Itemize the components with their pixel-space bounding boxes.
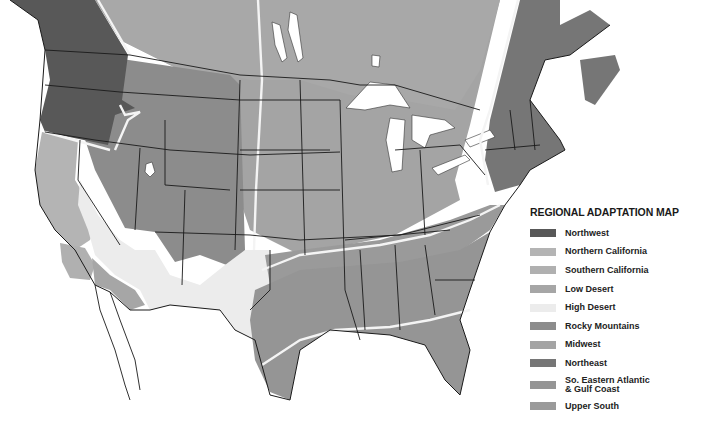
swatch-northern-california (530, 248, 556, 256)
swatch-rocky-mountains (530, 322, 556, 330)
legend-item-high-desert: High Desert (530, 298, 716, 317)
swatch-northwest (530, 229, 556, 237)
legend: REGIONAL ADAPTATION MAP Northwest Northe… (530, 206, 716, 415)
legend-item-northeast: Northeast (530, 354, 716, 373)
region-atlantic-canada (580, 55, 620, 105)
legend-item-northwest: Northwest (530, 224, 716, 243)
swatch-southern-california (530, 266, 556, 274)
legend-item-southeast-gulf-coast: So. Eastern Atlantic & Gulf Coast (530, 373, 716, 397)
legend-item-rocky-mountains: Rocky Mountains (530, 317, 716, 336)
legend-item-southern-california: Southern California (530, 261, 716, 280)
legend-item-upper-south: Upper South (530, 397, 716, 416)
swatch-southeast-gulf-coast (530, 381, 556, 389)
swatch-upper-south (530, 402, 556, 410)
swatch-high-desert (530, 304, 556, 312)
swatch-low-desert (530, 285, 556, 293)
legend-item-northern-california: Northern California (530, 243, 716, 262)
swatch-midwest (530, 341, 556, 349)
legend-title: REGIONAL ADAPTATION MAP (530, 206, 716, 218)
swatch-northeast (530, 359, 556, 367)
legend-item-midwest: Midwest (530, 336, 716, 355)
legend-item-low-desert: Low Desert (530, 280, 716, 299)
region-southern-california (60, 243, 95, 280)
